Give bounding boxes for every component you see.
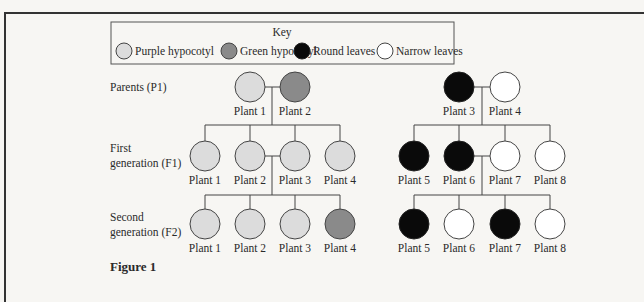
row-label-f1-line1: First xyxy=(110,142,132,154)
plant-label: Plant 6 xyxy=(443,174,476,186)
plant-purple-hypocotyl-icon xyxy=(325,141,355,171)
plant-label: Plant 2 xyxy=(279,105,312,117)
plant-round-leaves-icon xyxy=(399,209,429,239)
plant-label: Plant 7 xyxy=(489,174,522,186)
hypocotyl-f2: Plant 1 Plant 2 Plant 3 Plant 4 xyxy=(189,209,357,254)
plant-narrow-leaves-icon xyxy=(490,72,520,102)
plant-green-hypocotyl-icon xyxy=(280,72,310,102)
plant-purple-hypocotyl-icon xyxy=(190,141,220,171)
plant-label: Plant 3 xyxy=(279,242,312,254)
plant-purple-hypocotyl-icon xyxy=(280,209,310,239)
plant-label: Plant 1 xyxy=(234,105,267,117)
plant-label: Plant 8 xyxy=(534,242,567,254)
plant-purple-hypocotyl-icon xyxy=(235,72,265,102)
plant-round-leaves-icon xyxy=(490,209,520,239)
plant-purple-hypocotyl-icon xyxy=(280,141,310,171)
plant-green-hypocotyl-icon xyxy=(325,209,355,239)
key-label-purple: Purple hypocotyl xyxy=(135,45,214,58)
plant-round-leaves-icon xyxy=(444,141,474,171)
plant-narrow-leaves-icon xyxy=(535,209,565,239)
hypocotyl-p1: Plant 1 Plant 2 xyxy=(234,72,312,117)
row-label-p1: Parents (P1) xyxy=(110,81,167,94)
plant-label: Plant 1 xyxy=(189,242,222,254)
plant-label: Plant 3 xyxy=(279,174,312,186)
plant-label: Plant 4 xyxy=(324,242,357,254)
plant-label: Plant 2 xyxy=(234,174,267,186)
leaves-f2: Plant 5 Plant 6 Plant 7 Plant 8 xyxy=(398,209,567,254)
row-label-f2-line2: generation (F2) xyxy=(110,226,181,239)
leaves-cross xyxy=(414,87,550,209)
plant-label: Plant 4 xyxy=(489,105,522,117)
figure-caption: Figure 1 xyxy=(110,259,156,274)
key-title: Key xyxy=(272,26,291,39)
plant-label: Plant 2 xyxy=(234,242,267,254)
plant-label: Plant 5 xyxy=(398,174,431,186)
plant-narrow-leaves-icon xyxy=(444,209,474,239)
plant-label: Plant 6 xyxy=(443,242,476,254)
plant-purple-hypocotyl-icon xyxy=(235,209,265,239)
plant-round-leaves-icon xyxy=(399,141,429,171)
hypocotyl-f1: Plant 1 Plant 2 Plant 3 Plant 4 xyxy=(189,141,357,186)
key-legend: Key Purple hypocotyl Green hypocotyl Rou… xyxy=(111,22,463,64)
plant-narrow-leaves-icon xyxy=(535,141,565,171)
plant-round-leaves-icon xyxy=(444,72,474,102)
plant-purple-hypocotyl-icon xyxy=(190,209,220,239)
narrow-leaves-swatch-icon xyxy=(377,43,393,59)
purple-hypocotyl-swatch-icon xyxy=(116,43,132,59)
row-label-f1-line2: generation (F1) xyxy=(110,157,181,170)
round-leaves-swatch-icon xyxy=(294,43,310,59)
green-hypocotyl-swatch-icon xyxy=(221,43,237,59)
plant-label: Plant 4 xyxy=(324,174,357,186)
plant-narrow-leaves-icon xyxy=(490,141,520,171)
plant-purple-hypocotyl-icon xyxy=(235,141,265,171)
plant-label: Plant 1 xyxy=(189,174,222,186)
hypocotyl-cross xyxy=(205,87,340,209)
row-label-f2-line1: Second xyxy=(110,211,144,223)
plant-label: Plant 5 xyxy=(398,242,431,254)
key-label-round: Round leaves xyxy=(313,45,376,57)
plant-label: Plant 8 xyxy=(534,174,567,186)
key-label-narrow: Narrow leaves xyxy=(396,45,463,57)
plant-label: Plant 3 xyxy=(443,105,476,117)
plant-label: Plant 7 xyxy=(489,242,522,254)
